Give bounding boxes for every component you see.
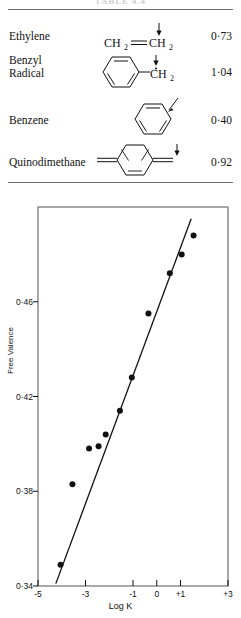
y-tick-label: 0·46 <box>3 297 33 307</box>
quinoid-ring <box>117 145 153 175</box>
table-top-rule <box>8 9 233 10</box>
data-point <box>86 446 92 452</box>
plot-area <box>0 196 241 596</box>
data-point <box>103 431 109 437</box>
structure-benzene <box>130 96 190 142</box>
x-tick-label: -3 <box>74 589 98 599</box>
benzene-diagram <box>130 96 190 142</box>
data-point <box>96 443 102 449</box>
x-tick-label: -5 <box>26 589 50 599</box>
down-arrow-icon <box>156 23 161 36</box>
compound-name: Ethylene <box>9 30 50 43</box>
x-axis-label: Log K <box>0 601 241 611</box>
table-bottom-rule <box>8 182 233 183</box>
benzene-ring <box>135 104 171 134</box>
compound-name: Benzyl Radical <box>9 54 44 79</box>
data-point <box>191 232 197 238</box>
x-tick-label: +3 <box>216 589 240 599</box>
table-row: Benzyl Radical CH 2 1·04 <box>0 52 241 94</box>
data-point <box>145 311 151 317</box>
svg-text:CH: CH <box>104 36 121 50</box>
x-tick-label: +1 <box>169 589 193 599</box>
compound-name: Quinodimethane <box>9 156 86 169</box>
data-point <box>58 562 64 568</box>
free-valence-value: 1·04 <box>198 66 232 78</box>
svg-text:2: 2 <box>170 74 174 83</box>
free-valence-vs-logk-chart: Free Valence Log K 0·46 0·42 0·38 0·34 -… <box>0 196 241 618</box>
svg-text:2: 2 <box>169 43 173 52</box>
data-point <box>69 481 75 487</box>
down-arrow-icon <box>153 55 158 66</box>
textbook-page: TABLE 4.4 Ethylene CH 2 CH 2 0·73 Benzyl… <box>0 0 241 618</box>
svg-text:CH: CH <box>149 36 166 50</box>
table-row: Quinodimethane 0·92 <box>0 140 241 182</box>
data-point <box>117 408 123 414</box>
x-tick-label: -1 <box>121 589 145 599</box>
table-row: Ethylene CH 2 CH 2 0·73 <box>0 22 241 52</box>
y-tick-label: 0·42 <box>3 392 33 402</box>
data-point <box>179 251 185 257</box>
structure-quinodimethane <box>92 140 190 182</box>
table-caption: TABLE 4.4 <box>0 0 241 4</box>
compound-name: Benzene <box>9 114 49 127</box>
structure-ethylene: CH 2 CH 2 <box>104 22 190 52</box>
data-point <box>167 270 173 276</box>
x-tick-label: 0 <box>145 589 169 599</box>
ethylene-diagram: CH 2 CH 2 <box>104 22 190 52</box>
data-points <box>58 232 197 567</box>
data-point <box>129 375 135 381</box>
benzene-ring <box>103 57 139 87</box>
free-valence-value: 0·92 <box>198 156 232 168</box>
free-valence-value: 0·73 <box>198 30 232 42</box>
y-tick-label: 0·38 <box>3 486 33 496</box>
structure-benzyl-radical: CH 2 <box>98 52 190 94</box>
x-tick-marks <box>38 580 228 586</box>
free-valence-value: 0·40 <box>198 114 232 126</box>
svg-text:CH: CH <box>150 67 167 81</box>
table-row: Benzene 0·40 <box>0 96 241 142</box>
diagonal-arrow-icon <box>168 98 179 112</box>
plot-frame <box>38 207 228 586</box>
svg-text:2: 2 <box>124 43 128 52</box>
down-arrow-icon <box>174 144 179 156</box>
y-tick-marks <box>33 302 38 586</box>
y-axis-label: Free Valence <box>6 316 15 386</box>
quinodimethane-diagram <box>92 140 190 182</box>
benzyl-radical-diagram: CH 2 <box>98 52 190 94</box>
